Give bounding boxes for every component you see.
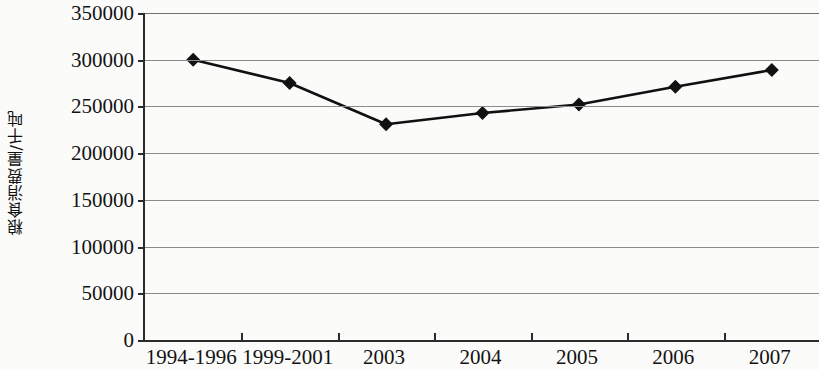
y-tick-mark — [138, 153, 145, 155]
x-tick-mark — [724, 333, 726, 341]
y-tick-label: 100000 — [71, 236, 134, 257]
x-tick-mark — [627, 333, 629, 341]
line-chart: 粮食消费量/千吨 0500001000001500002000002500003… — [0, 0, 819, 370]
gridline — [145, 153, 819, 154]
y-tick-label: 0 — [124, 330, 135, 351]
x-tick-label: 2007 — [749, 344, 791, 370]
y-tick-mark — [138, 60, 145, 62]
series-line — [145, 13, 819, 340]
x-tick-mark — [434, 333, 436, 341]
data-point-marker — [765, 63, 779, 77]
y-axis-title: 粮食消费量/千吨 — [0, 0, 34, 345]
x-tick-label: 1999-2001 — [242, 344, 333, 370]
y-axis-title-label: 粮食消费量/千吨 — [5, 110, 29, 235]
x-tick-mark — [531, 333, 533, 341]
gridline — [145, 60, 819, 61]
y-tick-label: 150000 — [71, 189, 134, 210]
data-point-marker — [283, 76, 297, 90]
plot-area — [143, 13, 819, 342]
data-point-marker — [379, 117, 393, 131]
x-tick-label: 2003 — [363, 344, 405, 370]
x-tick-label: 1994-1996 — [146, 344, 237, 370]
data-point-marker — [476, 106, 490, 120]
y-tick-mark — [138, 247, 145, 249]
y-tick-label: 200000 — [71, 143, 134, 164]
x-tick-label: 2004 — [460, 344, 502, 370]
data-point-marker — [572, 98, 586, 112]
gridline — [145, 13, 819, 14]
y-axis-tick-labels: 0500001000001500002000002500003000003500… — [34, 0, 140, 345]
y-tick-label: 350000 — [71, 3, 134, 24]
gridline — [145, 200, 819, 201]
x-tick-mark — [241, 333, 243, 341]
y-tick-mark — [138, 13, 145, 15]
x-axis-tick-labels: 1994-19961999-200120032004200520062007 — [143, 344, 818, 370]
y-tick-label: 300000 — [71, 49, 134, 70]
x-tick-label: 2006 — [652, 344, 694, 370]
y-tick-mark — [138, 106, 145, 108]
x-tick-mark — [338, 333, 340, 341]
y-tick-mark — [138, 293, 145, 295]
gridline — [145, 293, 819, 294]
data-point-marker — [668, 80, 682, 94]
y-tick-mark — [138, 340, 145, 342]
x-tick-label: 2005 — [556, 344, 598, 370]
y-tick-label: 250000 — [71, 96, 134, 117]
y-tick-label: 50000 — [82, 283, 135, 304]
gridline — [145, 106, 819, 107]
gridline — [145, 247, 819, 248]
y-tick-mark — [138, 200, 145, 202]
